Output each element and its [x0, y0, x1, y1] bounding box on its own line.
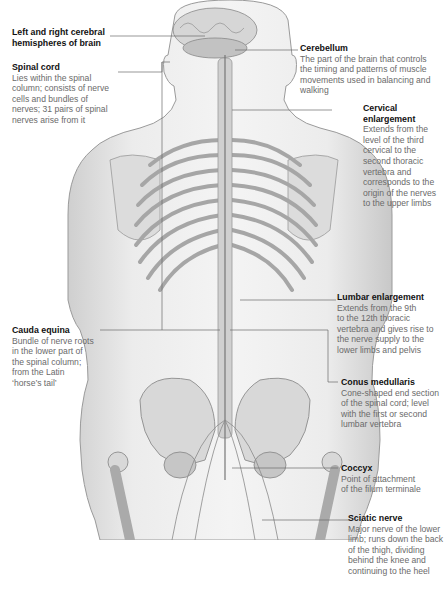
label-desc: to the upper limbs	[363, 198, 436, 209]
label-cerebellum: Cerebellum The part of the brain that co…	[300, 43, 430, 96]
label-desc: Major nerve of the lower	[348, 524, 443, 535]
label-desc: Lies within the spinal	[12, 73, 109, 84]
label-title: hemispheres of brain	[12, 38, 105, 49]
label-cauda-equina: Cauda equina Bundle of nerve roots in th…	[12, 325, 94, 389]
label-title: Cauda equina	[12, 325, 94, 336]
label-desc: movements used in balancing and	[300, 75, 430, 86]
label-coccyx: Coccyx Point of attachment of the filum …	[341, 463, 421, 495]
label-desc: the spinal column;	[12, 357, 94, 368]
label-desc: nerves arise from it	[12, 115, 109, 126]
label-cervical-enlargement: Cervical enlargement Extends from the le…	[363, 103, 436, 209]
label-desc: continuing to the heel	[348, 566, 443, 577]
label-desc: Cone-shaped end section	[341, 388, 439, 399]
spinal-column	[218, 55, 232, 480]
label-desc: nerves; 31 pairs of spinal	[12, 104, 109, 115]
label-desc: vertebra and gives rise to	[337, 324, 434, 335]
label-title: Cerebellum	[300, 43, 430, 54]
label-title: Conus medullaris	[341, 377, 439, 388]
brain	[173, 8, 257, 58]
label-desc: of the spinal cord; level	[341, 398, 439, 409]
label-title: enlargement	[363, 114, 436, 125]
label-desc: ‘horse’s tail’	[12, 378, 94, 389]
label-desc: column; consists of nerve	[12, 83, 109, 94]
label-desc: the timing and patterns of muscle	[300, 64, 430, 75]
label-desc: Point of attachment	[341, 474, 421, 485]
label-title: Coccyx	[341, 463, 421, 474]
label-desc: of the filum terminale	[341, 484, 421, 495]
label-desc: second thoracic	[363, 156, 436, 167]
label-title: Cervical	[363, 103, 436, 114]
label-desc: origin of the nerves	[363, 188, 436, 199]
label-desc: walking	[300, 85, 430, 96]
label-title: Spinal cord	[12, 62, 109, 73]
label-title: Sciatic nerve	[348, 513, 443, 524]
label-desc: Extends from the 9th	[337, 303, 434, 314]
label-desc: cells and bundles of	[12, 94, 109, 105]
label-desc: Extends from the	[363, 124, 436, 135]
label-desc: the nerve supply to the	[337, 334, 434, 345]
label-desc: limb; runs down the back	[348, 534, 443, 545]
label-cerebral-hemispheres: Left and right cerebral hemispheres of b…	[12, 27, 105, 48]
label-desc: behind the knee and	[348, 555, 443, 566]
label-spinal-cord: Spinal cord Lies within the spinal colum…	[12, 62, 109, 126]
label-desc: to the 12th thoracic	[337, 313, 434, 324]
label-desc: vertebra and	[363, 167, 436, 178]
label-desc: Bundle of nerve roots	[12, 336, 94, 347]
label-title: Lumbar enlargement	[337, 292, 434, 303]
label-desc: with the first or second	[341, 409, 439, 420]
label-desc: corresponds to the	[363, 177, 436, 188]
label-conus-medullaris: Conus medullaris Cone-shaped end section…	[341, 377, 439, 430]
label-desc: lumbar vertebra	[341, 419, 439, 430]
label-sciatic-nerve: Sciatic nerve Major nerve of the lower l…	[348, 513, 443, 577]
label-desc: of the thigh, dividing	[348, 545, 443, 556]
label-desc: from the Latin	[12, 367, 94, 378]
label-desc: level of the third	[363, 135, 436, 146]
label-desc: cervical to the	[363, 145, 436, 156]
label-desc: lower limbs and pelvis	[337, 345, 434, 356]
label-title: Left and right cerebral	[12, 27, 105, 38]
label-lumbar-enlargement: Lumbar enlargement Extends from the 9th …	[337, 292, 434, 356]
label-desc: The part of the brain that controls	[300, 54, 430, 65]
label-desc: in the lower part of	[12, 346, 94, 357]
